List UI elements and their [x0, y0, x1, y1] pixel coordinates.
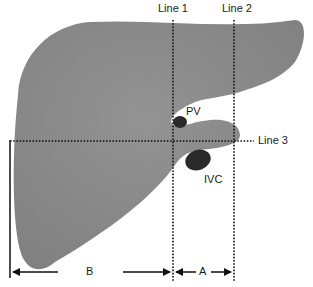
measurement-a-label: A	[199, 266, 206, 277]
ivc-label: IVC	[204, 174, 222, 185]
line2-label: Line 2	[222, 3, 252, 14]
line3-label: Line 3	[258, 135, 288, 146]
pv-vessel	[173, 116, 187, 128]
measurement-b-label: B	[86, 266, 93, 277]
pv-label: PV	[186, 106, 201, 117]
line1-label: Line 1	[158, 3, 188, 14]
